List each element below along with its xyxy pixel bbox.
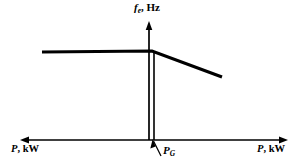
figure-root: fe, Hz P, kW P, kW PG	[0, 0, 306, 165]
x-axis-label-right-unit: kW	[269, 143, 285, 154]
operating-point-subscript: G	[170, 149, 175, 158]
y-axis-label-unit: Hz	[147, 1, 160, 13]
y-axis-label: fe, Hz	[134, 2, 160, 15]
operating-point-label: PG	[163, 145, 175, 158]
droop-characteristic-figure	[0, 0, 306, 165]
x-axis-label-left-unit: kW	[23, 143, 39, 154]
x-axis-label-left: P, kW	[11, 144, 39, 155]
droop-curve	[42, 51, 222, 77]
y-axis-arrow-icon	[146, 21, 153, 30]
operating-point-variable: P	[163, 144, 170, 156]
pg-pointer-line	[154, 141, 162, 156]
x-axis-label-right: P, kW	[257, 144, 285, 155]
